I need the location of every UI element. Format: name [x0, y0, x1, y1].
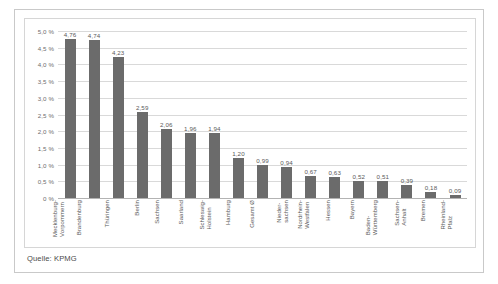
- category-label-line: Vorpommern: [58, 200, 65, 237]
- bar-value-label: 0,99: [256, 157, 268, 164]
- bar-column: 0,94: [275, 31, 299, 198]
- category-column: Berlin: [130, 200, 154, 255]
- category-column: Brandenburg: [82, 200, 106, 255]
- y-axis-tick-label: 0,5 %: [38, 178, 54, 185]
- bar-column: 0,09: [443, 31, 467, 198]
- category-label-line: Bayern: [349, 200, 356, 219]
- plot-frame: 5,0 %4,5 %4,0 %3,5 %3,0 %2,5 %2,0 %1,5 %…: [24, 18, 476, 248]
- bar: [209, 133, 220, 198]
- category-column: Sachsen: [154, 200, 178, 255]
- category-column: Nordrhein-Westfalen: [299, 200, 323, 255]
- category-label: Sachsen: [154, 200, 161, 224]
- category-axis-labels: Mecklenburg-VorpommernBrandenburgThüring…: [58, 200, 467, 255]
- bar-column: 4,74: [82, 31, 106, 198]
- category-label: Hamburg: [226, 200, 233, 225]
- category-label-line: Westfalen: [303, 200, 310, 229]
- category-label: Rheinland-Pfalz: [440, 200, 453, 230]
- category-label: Mecklenburg-Vorpommern: [52, 200, 65, 237]
- bar-value-label: 0,63: [328, 169, 340, 176]
- category-column: Baden-Württemberg: [371, 200, 395, 255]
- bar: [425, 192, 436, 198]
- category-label: Baden-Württemberg: [365, 200, 378, 235]
- category-label: Gesamt Ø: [249, 200, 256, 228]
- category-column: Thüringen: [106, 200, 130, 255]
- category-label-line: Holstein: [206, 200, 213, 230]
- category-label: Saarland: [178, 200, 185, 224]
- category-label: Bayern: [349, 200, 356, 219]
- bar: [137, 112, 148, 199]
- bar: [113, 57, 124, 198]
- bar-value-label: 0,18: [425, 184, 437, 191]
- category-label-line: Saarland: [178, 200, 185, 224]
- bar: [257, 165, 268, 198]
- chart-figure: 5,0 %4,5 %4,0 %3,5 %3,0 %2,5 %2,0 %1,5 %…: [14, 9, 484, 273]
- y-axis-tick-label: 4,0 %: [38, 61, 54, 68]
- bar-column: 0,39: [395, 31, 419, 198]
- bar-value-label: 2,06: [160, 121, 172, 128]
- bar: [233, 158, 244, 198]
- bar: [401, 185, 412, 198]
- bar-value-label: 1,20: [232, 150, 244, 157]
- category-column: Schleswig-Holstein: [202, 200, 226, 255]
- source-caption: Quelle: KPMG: [27, 254, 77, 263]
- category-label-line: Mecklenburg-: [52, 200, 59, 237]
- bar: [65, 39, 76, 198]
- y-axis-tick-label: 1,5 %: [38, 144, 54, 151]
- category-column: Gesamt Ø: [251, 200, 275, 255]
- bar-column: 4,23: [106, 31, 130, 198]
- bar: [89, 40, 100, 198]
- category-label: Schleswig-Holstein: [200, 200, 213, 230]
- bar-column: 0,99: [251, 31, 275, 198]
- bar-column: 2,06: [154, 31, 178, 198]
- bar: [377, 181, 388, 198]
- axis-baseline: 0 %: [58, 198, 467, 199]
- category-label-line: Sachsen: [154, 200, 161, 224]
- bar-series: 4,764,744,232,592,061,961,941,200,990,94…: [58, 31, 467, 198]
- category-label-line: Pfalz: [447, 200, 454, 230]
- category-column: Hessen: [323, 200, 347, 255]
- category-column: Sachsen-Anhalt: [395, 200, 419, 255]
- bar-value-label: 4,76: [64, 31, 76, 38]
- category-label: Berlin: [134, 200, 141, 216]
- plot-area: 5,0 %4,5 %4,0 %3,5 %3,0 %2,5 %2,0 %1,5 %…: [58, 31, 467, 198]
- category-column: Hamburg: [226, 200, 250, 255]
- category-label: Hessen: [324, 200, 331, 221]
- category-label: Nieder-sachsen: [275, 200, 288, 223]
- bar-value-label: 0,39: [401, 177, 413, 184]
- category-label-line: Rheinland-: [440, 200, 447, 230]
- y-axis-tick-label: 2,0 %: [38, 128, 54, 135]
- category-label-line: Thüringen: [104, 200, 111, 227]
- bar-value-label: 1,94: [208, 125, 220, 132]
- category-label-line: Bremen: [420, 200, 427, 221]
- y-axis-tick-label: 5,0 %: [38, 28, 54, 35]
- category-label-line: Württemberg: [372, 200, 379, 235]
- bar: [281, 167, 292, 198]
- category-label-line: Berlin: [134, 200, 141, 216]
- bar-value-label: 0,51: [377, 173, 389, 180]
- category-label-line: Hamburg: [226, 200, 233, 225]
- category-label-line: Baden-: [365, 200, 372, 235]
- category-label: Thüringen: [104, 200, 111, 227]
- category-label: Brandenburg: [76, 200, 83, 235]
- category-column: Nieder-sachsen: [275, 200, 299, 255]
- bar-value-label: 0,09: [449, 187, 461, 194]
- bar-value-label: 4,74: [88, 32, 100, 39]
- category-label-line: Brandenburg: [76, 200, 83, 235]
- bar-column: 4,76: [58, 31, 82, 198]
- category-label: Nordrhein-Westfalen: [296, 200, 309, 229]
- bar: [161, 129, 172, 198]
- bar-column: 0,67: [299, 31, 323, 198]
- bar-column: 0,51: [371, 31, 395, 198]
- category-label-line: sachsen: [282, 200, 289, 223]
- y-axis-tick-label: 2,5 %: [38, 111, 54, 118]
- bar: [185, 133, 196, 198]
- category-label-line: Anhalt: [401, 200, 408, 226]
- bar-column: 1,94: [202, 31, 226, 198]
- bar: [329, 177, 340, 198]
- y-axis-tick-label: 3,0 %: [38, 94, 54, 101]
- bar-value-label: 0,94: [280, 159, 292, 166]
- category-column: Rheinland-Pfalz: [443, 200, 467, 255]
- category-label-line: Nordrhein-: [296, 200, 303, 229]
- bar: [450, 195, 461, 198]
- bar-value-label: 2,59: [136, 104, 148, 111]
